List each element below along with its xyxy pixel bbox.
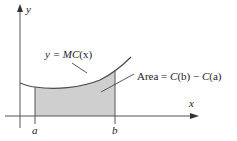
tick-label-a: a: [32, 124, 38, 136]
x-axis-label: x: [188, 97, 194, 109]
y-axis-label: y: [25, 3, 31, 15]
area-label-minus: −: [190, 70, 202, 82]
area-label: Area = C(b) − C(a): [137, 70, 222, 83]
curve-label-func: MC: [62, 48, 80, 60]
area-label-prefix: Area =: [137, 70, 170, 82]
curve-label-arg: (x): [79, 48, 92, 61]
x-axis-arrow-icon: [190, 113, 199, 119]
curve-label-prefix: y =: [44, 48, 63, 60]
curve-label: y = MC(x): [44, 48, 92, 61]
tick-label-b: b: [112, 124, 118, 136]
diagram-canvas: y x y = MC(x) Area = C(b) − C(a) a b: [0, 0, 237, 141]
area-label-b-arg: (b): [177, 70, 190, 83]
area-label-a-arg: (a): [209, 70, 222, 83]
y-axis-arrow-icon: [17, 4, 23, 12]
curve-label-leader: [72, 63, 87, 73]
